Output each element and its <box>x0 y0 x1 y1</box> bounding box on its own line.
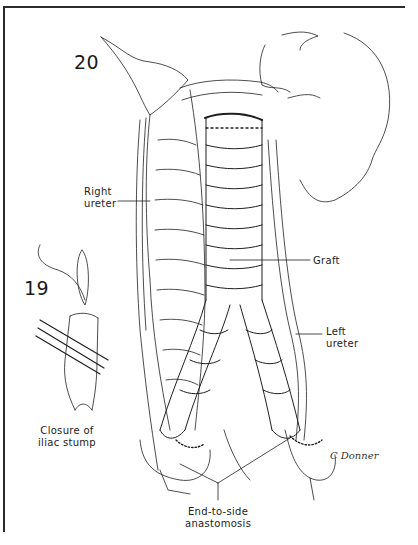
right-ureter-line <box>136 118 158 470</box>
figure-19-stump-illustration <box>36 245 108 410</box>
figure-19-number: 19 <box>24 278 49 298</box>
right-pelvis-outline <box>101 37 188 115</box>
aortic-graft <box>160 118 300 438</box>
artist-signature: C Donner <box>330 450 378 461</box>
label-closure-line2: iliac stump <box>38 437 96 449</box>
leader-lines <box>118 201 322 500</box>
label-anastomosis-line2: anastomosis <box>185 518 251 530</box>
label-closure-line1: Closure of <box>38 425 96 437</box>
label-left-ureter: Left ureter <box>326 326 358 350</box>
label-closure-iliac-stump: Closure of iliac stump <box>38 425 96 449</box>
right-psoas-muscle <box>146 90 205 430</box>
surgical-illustration <box>0 0 418 545</box>
label-right-ureter: Right ureter <box>84 186 116 210</box>
label-left-ureter-line1: Left <box>326 326 358 338</box>
label-left-ureter-line2: ureter <box>326 338 358 350</box>
label-right-ureter-line2: ureter <box>84 198 116 210</box>
label-end-to-side-anastomosis: End-to-side anastomosis <box>185 506 251 530</box>
label-right-ureter-line1: Right <box>84 186 116 198</box>
anastomosis-sutures <box>176 436 322 447</box>
figure-20-number: 20 <box>74 52 99 72</box>
label-anastomosis-line1: End-to-side <box>185 506 251 518</box>
label-graft: Graft <box>313 255 340 267</box>
iliac-vessels <box>140 430 335 500</box>
left-kidney-outline <box>260 32 390 202</box>
left-ureter-line <box>268 140 306 440</box>
